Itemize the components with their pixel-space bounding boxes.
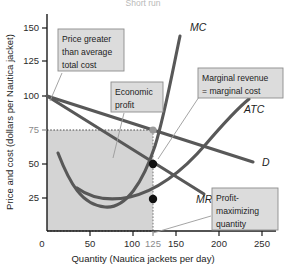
price-point-marker — [149, 126, 156, 133]
callout-price-greater-than-atc: Price greater than average total cost — [58, 29, 124, 71]
x-tick-label-100: 100 — [124, 238, 140, 249]
x-axis-title: Quantity (Nautica jackets per day) — [71, 253, 214, 264]
mr-curve-label: MR — [196, 193, 213, 205]
mr-equals-mc-point-marker — [149, 160, 157, 168]
callout-mrmc-line-2: = marginal cost — [202, 86, 261, 96]
callout-economic-profit: Economic profit — [111, 82, 163, 112]
y-tick-label-100: 100 — [23, 90, 39, 101]
chart-svg: Short run 150 125 100 75 50 25 0 — [0, 0, 287, 280]
y-tick-label-150: 150 — [23, 22, 39, 33]
atc-curve-label: ATC — [243, 103, 265, 115]
x-tick-label-0: 0 — [39, 238, 44, 249]
callout-qty-line-3: quantity — [216, 219, 247, 229]
callout-profit-line-1: Economic — [115, 87, 153, 97]
y-axis-title: Price and cost (dollars per Nautica jack… — [4, 34, 15, 210]
x-tick-label-200: 200 — [211, 238, 227, 249]
y-tick-label-50: 50 — [28, 158, 39, 169]
callout-qty-line-2: maximizing — [216, 206, 259, 216]
x-axis-ticks — [90, 231, 262, 236]
economics-chart-figure: Short run 150 125 100 75 50 25 0 — [0, 0, 287, 280]
x-tick-label-250: 250 — [254, 238, 270, 249]
callout-price-line-3: total cost — [62, 60, 97, 70]
leader-price-greater — [50, 73, 62, 101]
y-tick-label-75: 75 — [28, 124, 39, 135]
x-tick-label-150: 150 — [168, 238, 184, 249]
callout-price-line-1: Price greater — [62, 34, 111, 44]
demand-curve-label: D — [262, 156, 270, 168]
callout-mrmc-line-1: Marginal revenue — [202, 73, 269, 83]
economic-profit-shaded-region — [47, 130, 153, 231]
atc-point-marker — [149, 195, 157, 203]
callout-profit-line-2: profit — [115, 100, 135, 110]
callout-qty-line-1: Profit- — [216, 193, 239, 203]
y-tick-label-125: 125 — [23, 55, 39, 66]
callout-profit-maximizing-quantity: Profit- maximizing quantity — [212, 188, 278, 230]
mc-curve-label: MC — [190, 21, 207, 33]
x-tick-label-50: 50 — [85, 238, 96, 249]
figure-title: Short run — [126, 0, 161, 8]
callout-mr-equals-mc: Marginal revenue = marginal cost — [198, 68, 283, 98]
callout-price-line-2: than average — [62, 47, 112, 57]
x-tick-label-125: 125 — [145, 238, 161, 249]
y-axis-ticks — [42, 28, 47, 198]
y-tick-label-25: 25 — [28, 192, 39, 203]
